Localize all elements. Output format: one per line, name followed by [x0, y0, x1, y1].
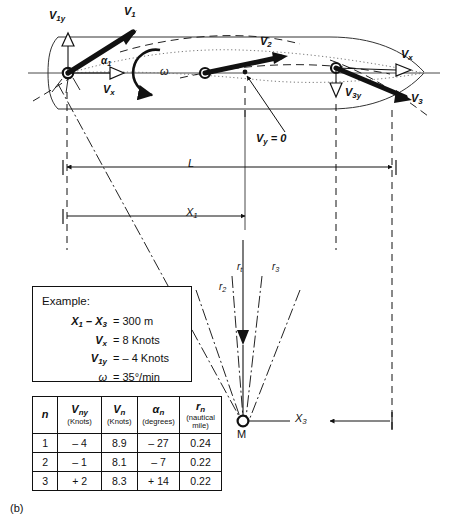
example-row: X1 – X3 = 300 m: [33, 315, 191, 329]
cell-rn: 0.22: [180, 472, 222, 491]
dimension-line-x1: [63, 209, 245, 224]
results-table: n Vny (Knots) Vn (Knots) αn (degrees) rn…: [32, 396, 222, 491]
table-header-alphan: αn (degrees): [137, 397, 179, 434]
label-m: M: [237, 429, 246, 440]
figure-caption: (b): [10, 503, 23, 514]
label-omega: ω: [160, 66, 169, 77]
label-dimension-x3: X3: [295, 413, 307, 426]
table-header-row: n Vny (Knots) Vn (Knots) αn (degrees) rn…: [33, 397, 222, 434]
cell-alphan: + 14: [137, 472, 179, 491]
table-header-vn: Vn (Knots): [101, 397, 137, 434]
cell-vny: – 4: [58, 434, 101, 453]
cell-vny: + 2: [58, 472, 101, 491]
table-header-n: n: [33, 397, 58, 434]
example-lhs: X1 – X3: [33, 315, 113, 329]
label-rt: rt: [237, 262, 242, 273]
label-alpha1: α1: [101, 56, 111, 67]
label-vx-right: Vx: [401, 49, 413, 62]
label-r3: r3: [272, 262, 279, 273]
vy-zero-point: [243, 70, 248, 75]
example-rhs: = 35°/min: [113, 371, 160, 383]
vector-v3-head: [394, 90, 412, 103]
example-rhs: = 8 Knots: [113, 334, 160, 346]
vector-v2: [205, 57, 281, 73]
cell-vn: 8.3: [101, 472, 137, 491]
example-lhs: ω: [33, 371, 113, 383]
example-rhs: = 300 m: [113, 315, 153, 327]
vector-v1y: [62, 33, 74, 73]
turn-center-marker-m: [238, 416, 249, 427]
cell-vny: – 1: [58, 453, 101, 472]
table-header-vny: Vny (Knots): [58, 397, 101, 434]
example-rows: X1 – X3 = 300 m Vx = 8 Knots V1y = – 4 K…: [33, 315, 191, 388]
example-row: ω = 35°/min: [33, 371, 191, 383]
dimension-line-l: [63, 160, 396, 175]
example-box: Example: X1 – X3 = 300 m Vx = 8 Knots V1…: [32, 286, 192, 382]
cell-vn: 8.9: [101, 434, 137, 453]
cell-n: 3: [33, 472, 58, 491]
label-r2: r2: [219, 282, 226, 293]
example-row: V1y = – 4 Knots: [33, 352, 191, 366]
cell-n: 1: [33, 434, 58, 453]
label-v3y: V3y: [345, 87, 361, 100]
cell-alphan: – 7: [137, 453, 179, 472]
vy-zero-leader: [247, 76, 285, 132]
vector-v2-head: [272, 52, 288, 64]
label-dimension-x1: X1: [186, 207, 198, 220]
cell-vn: 8.1: [101, 453, 137, 472]
table-header-rn: rn (nautical mile): [180, 397, 222, 434]
table-body: 1 – 4 8.9 – 27 0.24 2 – 1 8.1 – 7 0.22 3…: [33, 434, 222, 491]
cell-n: 2: [33, 453, 58, 472]
label-vy-zero: Vy = 0: [256, 133, 286, 146]
cell-rn: 0.22: [180, 453, 222, 472]
example-title: Example:: [42, 295, 90, 307]
table-row: 3 + 2 8.3 + 14 0.22: [33, 472, 222, 491]
cell-alphan: – 27: [137, 434, 179, 453]
label-v1y: V1y: [49, 10, 65, 23]
dimension-line-x3: [249, 412, 392, 430]
cell-rn: 0.24: [180, 434, 222, 453]
example-row: Vx = 8 Knots: [33, 334, 191, 348]
example-lhs: Vx: [33, 334, 113, 348]
label-v2: V2: [260, 36, 272, 49]
example-rhs: = – 4 Knots: [113, 352, 169, 364]
label-v3: V3: [411, 93, 423, 106]
table-row: 2 – 1 8.1 – 7 0.22: [33, 453, 222, 472]
label-v1: V1: [124, 6, 136, 19]
example-lhs: V1y: [33, 352, 113, 366]
marker-1-radials: [52, 78, 80, 93]
label-vx-left: Vx: [103, 84, 115, 97]
label-dimension-l: L: [188, 158, 194, 169]
dashed-construction-arcs: [33, 36, 428, 116]
table-row: 1 – 4 8.9 – 27 0.24: [33, 434, 222, 453]
